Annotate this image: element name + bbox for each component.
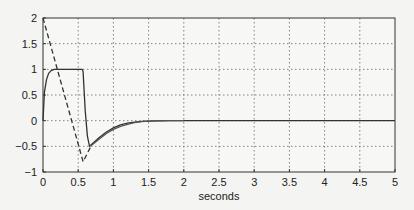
x-tick-label: 0.5	[71, 176, 86, 188]
x-tick-label: 1	[110, 176, 116, 188]
x-tick-label: 0	[40, 176, 46, 188]
y-tick-label: 0	[31, 115, 37, 127]
y-tick-label: −0.5	[15, 140, 37, 152]
y-tick-label: 1	[31, 63, 37, 75]
plot-area	[43, 18, 395, 172]
y-tick-label: 0.5	[22, 89, 37, 101]
x-tick-label: 3.5	[282, 176, 297, 188]
x-tick-label: 2	[181, 176, 187, 188]
x-axis-label: seconds	[199, 190, 240, 202]
x-tick-label: 2.5	[211, 176, 226, 188]
line-chart: 00.511.522.533.544.55 −1−0.500.511.52 se…	[0, 0, 414, 210]
x-tick-label: 3	[251, 176, 257, 188]
x-tick-label: 5	[392, 176, 398, 188]
x-tick-label: 4.5	[352, 176, 367, 188]
x-tick-label: 1.5	[141, 176, 156, 188]
y-tick-label: 2	[31, 12, 37, 24]
x-tick-label: 4	[322, 176, 328, 188]
y-tick-label: 1.5	[22, 38, 37, 50]
y-tick-label: −1	[24, 166, 37, 178]
